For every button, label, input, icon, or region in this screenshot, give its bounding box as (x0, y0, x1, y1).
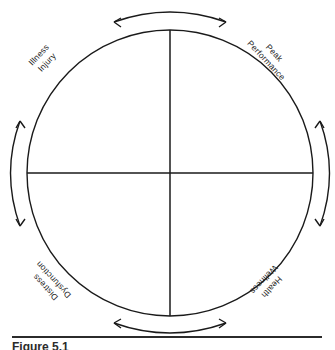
right-arrow-head-top (315, 121, 324, 128)
left-arrow-head-top (16, 121, 25, 128)
top-arrow-head-right (219, 18, 226, 27)
top-arrow-head-left (114, 18, 121, 27)
bottom-arrow (114, 319, 226, 333)
top-arrow (114, 12, 226, 27)
figure-container: Illness Injury Peak Performance Distress… (0, 0, 335, 350)
caption-divider (12, 336, 322, 338)
right-arrow (315, 121, 330, 226)
left-arrow (11, 121, 26, 226)
figure-caption: Figure 5.1 (12, 340, 69, 350)
left-arrow-head-bottom (16, 219, 25, 226)
right-arrow-head-bottom (315, 219, 324, 226)
